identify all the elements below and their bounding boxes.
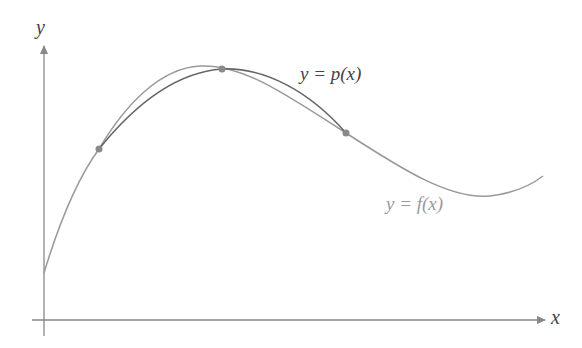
curve-f-label: y = f(x) <box>386 193 443 215</box>
interpolation-point-3 <box>343 130 350 137</box>
curve-f <box>44 66 543 273</box>
interpolation-point-1 <box>96 146 103 153</box>
diagram-svg <box>0 0 582 348</box>
y-axis-label: y <box>36 16 45 39</box>
curve-p-label: y = p(x) <box>300 63 361 85</box>
diagram-canvas: y x y = p(x) y = f(x) <box>0 0 582 348</box>
x-axis-label: x <box>551 306 560 329</box>
interpolation-point-2 <box>219 66 226 73</box>
